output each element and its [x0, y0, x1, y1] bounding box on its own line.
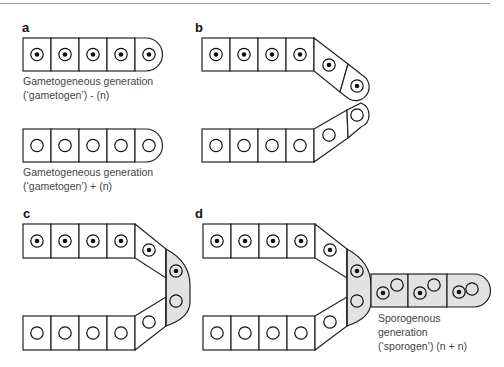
gametogen-minus-filament-bending — [202, 38, 369, 101]
panel-label-d: d — [195, 206, 203, 221]
caption-gametogen-plus: Gametogeneous generation (‘gametogen’) +… — [23, 166, 156, 192]
panel-label-a: a — [22, 20, 30, 35]
panel-label-b: b — [195, 20, 203, 35]
panel-label-c: c — [23, 206, 30, 221]
gametogen-plus-filament-bending — [202, 103, 369, 162]
fused-filaments — [23, 224, 190, 350]
gametogen-plus-filament — [23, 129, 163, 162]
alternation-of-generations-diagram: a Gametogeneous generation (‘gametogen’)… — [0, 0, 504, 367]
caption-gametogen-minus: Gametogeneous generation (‘gametogen’) -… — [23, 75, 156, 101]
panel-c: c — [23, 206, 190, 350]
panel-a: a Gametogeneous generation (‘gametogen’)… — [22, 20, 163, 192]
gametogen-minus-filament — [23, 38, 163, 71]
panel-d: d — [195, 206, 491, 352]
fusion-cell — [166, 249, 190, 326]
sporogen-filament — [371, 274, 491, 307]
fusion-cell — [347, 249, 371, 326]
fused-filaments-with-sporogen — [203, 224, 491, 350]
panel-b: b — [195, 20, 369, 162]
caption-sporogen: Sporogenous generation (‘sporogen’) (n +… — [378, 312, 467, 352]
